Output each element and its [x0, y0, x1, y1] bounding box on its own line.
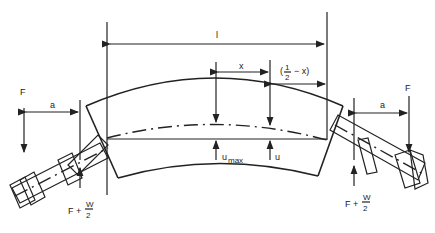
right-reaction-prefix: F + — [345, 199, 358, 209]
beam-right-end — [318, 106, 343, 176]
u-label: u — [275, 152, 280, 162]
half-numerator: 1 — [285, 63, 290, 72]
left-reaction-num: W — [86, 200, 94, 209]
right-reaction-num: W — [363, 193, 371, 202]
left-bolt — [10, 135, 108, 208]
left-reaction-den: 2 — [86, 211, 91, 220]
umax-label: u — [222, 152, 227, 162]
span-length-label: l — [216, 30, 218, 40]
right-force-label: F — [405, 83, 411, 93]
half-minus-x-rest: − x) — [294, 66, 309, 76]
umax-subscript: max — [228, 156, 243, 165]
right-arm-label: a — [380, 100, 385, 110]
beam-top-edge — [86, 78, 343, 106]
left-arm-label: a — [50, 100, 55, 110]
right-bolt — [330, 115, 428, 189]
neutral-axis — [107, 124, 327, 140]
offset-x-label: x — [239, 61, 244, 71]
half-minus-x-paren: ( — [280, 66, 283, 76]
half-denominator: 2 — [285, 73, 290, 82]
beam-bottom-edge — [118, 163, 318, 178]
left-reaction-prefix: F + — [68, 206, 81, 216]
left-force-label: F — [20, 87, 26, 97]
right-reaction-den: 2 — [363, 204, 368, 213]
bent-beam-diagram: l x ( 1 2 − x) u max u F a F + W 2 — [0, 0, 435, 233]
